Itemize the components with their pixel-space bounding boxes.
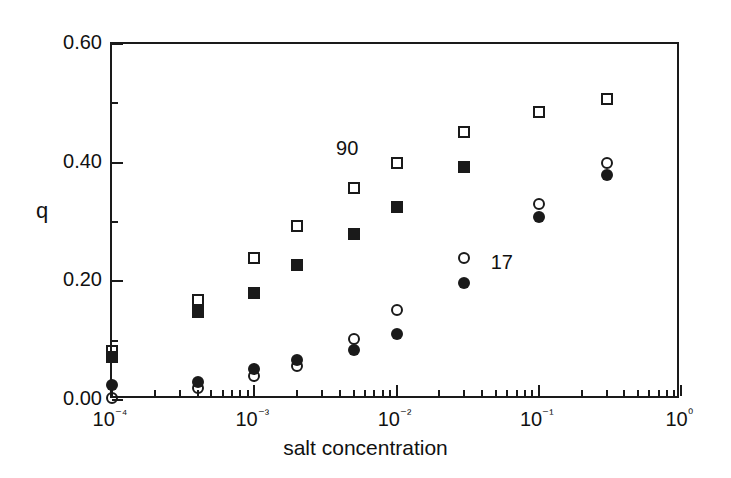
x-axis-tick-label: 10⁻²	[378, 408, 412, 431]
y-axis-tick-label: 0.60	[48, 31, 102, 54]
y-axis-minor-tick	[112, 221, 118, 223]
x-axis-tick-label: 10⁻⁴	[93, 408, 128, 431]
data-point	[348, 344, 360, 356]
x-axis-minor-tick	[353, 390, 355, 396]
data-point	[248, 287, 260, 299]
data-point	[391, 157, 403, 169]
data-point	[106, 351, 118, 363]
x-axis-minor-tick	[382, 390, 384, 396]
y-axis-major-tick	[112, 280, 123, 282]
data-point	[248, 363, 260, 375]
x-axis-minor-tick	[648, 390, 650, 396]
plot-area: 9017	[110, 42, 679, 398]
x-axis-minor-tick	[463, 390, 465, 396]
data-point	[291, 220, 303, 232]
x-axis-minor-tick	[524, 390, 526, 396]
x-axis-minor-tick	[231, 390, 233, 396]
x-axis-minor-tick	[506, 390, 508, 396]
x-axis-tick-label: 10⁻¹	[520, 408, 554, 431]
y-axis-title: q	[36, 198, 48, 224]
x-axis-major-tick	[396, 385, 398, 396]
data-point	[458, 161, 470, 173]
data-point	[601, 169, 613, 181]
x-axis-minor-tick	[666, 390, 668, 396]
data-point	[106, 379, 118, 391]
x-axis-minor-tick	[222, 390, 224, 396]
data-point	[348, 182, 360, 194]
data-point	[106, 392, 118, 404]
data-point	[601, 93, 613, 105]
y-axis-tick-label: 0.40	[48, 149, 102, 172]
y-axis-minor-tick	[112, 340, 118, 342]
data-point	[391, 304, 403, 316]
data-point	[391, 328, 403, 340]
data-point	[391, 201, 403, 213]
data-point	[458, 252, 470, 264]
x-axis-minor-tick	[179, 390, 181, 396]
x-axis-minor-tick	[531, 390, 533, 396]
x-axis-minor-tick	[247, 390, 249, 396]
y-axis-major-tick	[112, 162, 123, 164]
data-point	[533, 198, 545, 210]
x-axis-minor-tick	[658, 390, 660, 396]
x-axis-minor-tick	[296, 390, 298, 396]
y-axis-tick-label: 0.20	[48, 268, 102, 291]
y-axis-minor-tick	[112, 102, 118, 104]
data-point	[458, 277, 470, 289]
x-axis-minor-tick	[321, 390, 323, 396]
x-axis-major-tick	[253, 385, 255, 396]
x-axis-minor-tick	[373, 390, 375, 396]
x-axis-minor-tick	[438, 390, 440, 396]
data-point	[192, 306, 204, 318]
data-point	[458, 126, 470, 138]
x-axis-minor-tick	[623, 390, 625, 396]
data-point	[248, 252, 260, 264]
x-axis-minor-tick	[481, 390, 483, 396]
x-axis-major-tick	[538, 385, 540, 396]
x-axis-minor-tick	[389, 390, 391, 396]
x-axis-minor-tick	[637, 390, 639, 396]
data-point	[192, 294, 204, 306]
x-axis-minor-tick	[364, 390, 366, 396]
x-axis-minor-tick	[606, 390, 608, 396]
x-axis-minor-tick	[339, 390, 341, 396]
x-axis-title: salt concentration	[0, 436, 731, 460]
x-axis-minor-tick	[154, 390, 156, 396]
series-label: 17	[491, 251, 513, 274]
data-point	[348, 228, 360, 240]
x-axis-minor-tick	[495, 390, 497, 396]
y-axis-tick-label: 0.00	[48, 387, 102, 410]
chart-page: q salt concentration 0.000.200.400.60 10…	[0, 0, 731, 478]
data-point	[192, 376, 204, 388]
x-axis-minor-tick	[239, 390, 241, 396]
x-axis-minor-tick	[581, 390, 583, 396]
x-axis-tick-label: 10⁻³	[235, 408, 269, 431]
x-axis-minor-tick	[516, 390, 518, 396]
series-label: 90	[336, 136, 358, 159]
x-axis-minor-tick	[673, 390, 675, 396]
data-point	[291, 354, 303, 366]
y-axis-major-tick	[112, 43, 123, 45]
data-point	[291, 259, 303, 271]
x-axis-tick-label: 10⁰	[665, 408, 692, 431]
data-point	[533, 211, 545, 223]
data-point	[533, 106, 545, 118]
x-axis-minor-tick	[210, 390, 212, 396]
x-axis-major-tick	[680, 385, 682, 396]
data-point	[601, 157, 613, 169]
